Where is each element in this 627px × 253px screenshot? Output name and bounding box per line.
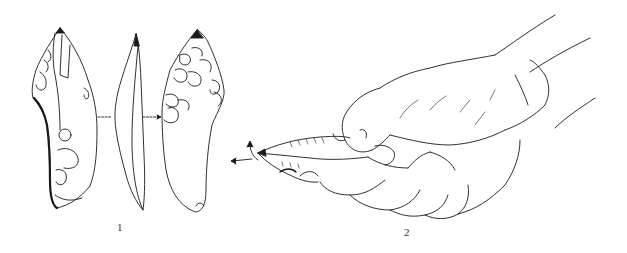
view-connector-arrows <box>98 115 161 119</box>
panel-2-label: 2 <box>404 226 410 238</box>
flint-ventral-view <box>162 30 224 212</box>
flint-profile-view <box>115 34 145 210</box>
flint-tool-in-hand <box>258 136 368 182</box>
hand <box>320 15 595 219</box>
panel-1-label: 1 <box>117 221 123 233</box>
figure: 1 2 <box>0 0 627 253</box>
motion-arrows <box>231 141 258 164</box>
flint-dorsal-view <box>32 28 97 208</box>
illustration-svg <box>0 0 627 253</box>
